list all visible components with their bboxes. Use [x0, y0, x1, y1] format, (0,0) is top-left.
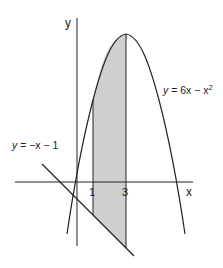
- tick-label-3: 3: [122, 186, 128, 198]
- tick-label-1: 1: [89, 186, 95, 198]
- diagram-canvas: y x 1 3 y = 6x − x2 y = −x − 1: [0, 0, 223, 268]
- shaded-region: [93, 34, 126, 248]
- y-axis-label: y: [65, 16, 71, 30]
- line-label: y = −x − 1: [11, 139, 59, 151]
- x-axis-label: x: [186, 185, 192, 199]
- parabola-label: y = 6x − x2: [162, 83, 213, 96]
